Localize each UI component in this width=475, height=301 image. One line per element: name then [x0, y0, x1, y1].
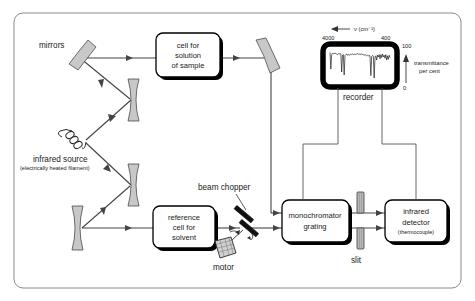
- recorder-unit[interactable]: [323, 44, 397, 87]
- reference-cell-line2: cell for: [173, 223, 196, 232]
- detector-line1: infrared: [403, 207, 429, 216]
- detector-line2: detector: [402, 218, 430, 227]
- slit-label: slit: [351, 256, 362, 265]
- sample-cell-box[interactable]: cell for solution of sample: [156, 33, 223, 80]
- x-axis-label: ν (cm⁻¹): [354, 26, 375, 32]
- sample-cell-line2: solution: [175, 51, 201, 60]
- monochromator-line2: grating: [303, 222, 326, 231]
- reference-cell-box[interactable]: reference cell for solvent: [153, 206, 218, 251]
- x-tick-400: 400: [381, 35, 390, 41]
- beam-chopper-label: beam chopper: [198, 183, 251, 192]
- sample-cell-line3: of sample: [172, 61, 205, 70]
- reference-cell-line3: solvent: [172, 233, 197, 242]
- x-tick-4000: 4000: [322, 35, 334, 41]
- monochromator-line1: monochromator: [288, 211, 342, 220]
- slit-lower: [357, 228, 364, 249]
- motor-label: motor: [213, 263, 234, 272]
- sample-cell-line1: cell for: [177, 41, 200, 50]
- diagram-canvas: cell for solution of sample reference ce…: [0, 0, 475, 301]
- detector-line3: (thermocouple): [398, 229, 434, 235]
- monochromator-box[interactable]: monochromator grating: [282, 200, 352, 245]
- infrared-source-sublabel: (electrically heated filament): [20, 165, 90, 171]
- infrared-source-label: infrared source: [33, 155, 88, 164]
- mirrors-label: mirrors: [39, 41, 64, 50]
- y-axis-label-line1: transmittance: [414, 60, 449, 66]
- y-tick-0: 0: [403, 85, 406, 91]
- slit-upper: [357, 192, 364, 213]
- recorder-label: recorder: [343, 93, 374, 102]
- y-axis-label-line2: per cent: [419, 68, 440, 74]
- reference-cell-line1: reference: [168, 213, 200, 222]
- y-tick-100: 100: [402, 43, 411, 49]
- infrared-detector-box[interactable]: infrared detector (thermocouple): [385, 200, 450, 245]
- ir-spectrometer-diagram: cell for solution of sample reference ce…: [0, 0, 475, 301]
